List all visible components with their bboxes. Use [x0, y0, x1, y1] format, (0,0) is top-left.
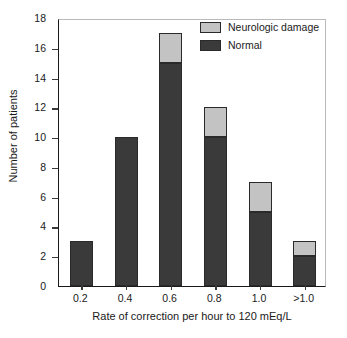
x-axis-title: Rate of correction per hour to 120 mEq/L [58, 310, 326, 322]
x-axis-tick-mark [126, 285, 127, 290]
legend-label-normal: Normal [228, 40, 262, 51]
y-axis-tick-label: 6 [40, 191, 46, 203]
y-axis-tick-label: 4 [40, 220, 46, 232]
plot-area [58, 19, 326, 287]
bar-segment-normal [204, 137, 227, 286]
bar-segment-normal [70, 241, 93, 286]
x-axis-tick-mark [171, 285, 172, 290]
y-axis-tick-label: 14 [34, 72, 46, 84]
x-axis-tick-label: >1.0 [274, 292, 334, 304]
x-axis-tick-mark [215, 285, 216, 290]
legend-label-neurologic-damage: Neurologic damage [228, 22, 319, 33]
y-axis-tick-label: 16 [34, 42, 46, 54]
x-axis-tick-mark [305, 285, 306, 290]
y-axis-title: Number of patients [7, 56, 19, 216]
y-axis-tick-label: 10 [34, 131, 46, 143]
legend-item-neurologic-damage: Neurologic damage [200, 21, 340, 34]
bar-segment-normal [115, 137, 138, 286]
bar-segment-normal [293, 256, 316, 286]
legend-swatch-normal [200, 40, 221, 51]
y-axis-tick-label: 12 [34, 101, 46, 113]
bar-segment-normal [159, 63, 182, 286]
y-axis-tick-label: 18 [34, 12, 46, 24]
bar-segment-neurologic-damage [204, 107, 227, 137]
chart-legend: Neurologic damage Normal [200, 21, 340, 57]
legend-swatch-neurologic-damage [200, 22, 221, 33]
x-axis-tick-mark [81, 285, 82, 290]
bar-segment-neurologic-damage [249, 182, 272, 212]
bar-segment-normal [249, 212, 272, 286]
x-axis-tick-mark [260, 285, 261, 290]
y-axis-tick-label: 8 [40, 161, 46, 173]
y-axis-tick-label: 0 [40, 280, 46, 292]
y-axis-tick-label: 2 [40, 250, 46, 262]
bar-chart: 024681012141618 Number of patients 0.20.… [0, 0, 347, 338]
legend-item-normal: Normal [200, 39, 340, 52]
bar-segment-neurologic-damage [159, 33, 182, 63]
bar-segment-neurologic-damage [293, 241, 316, 256]
